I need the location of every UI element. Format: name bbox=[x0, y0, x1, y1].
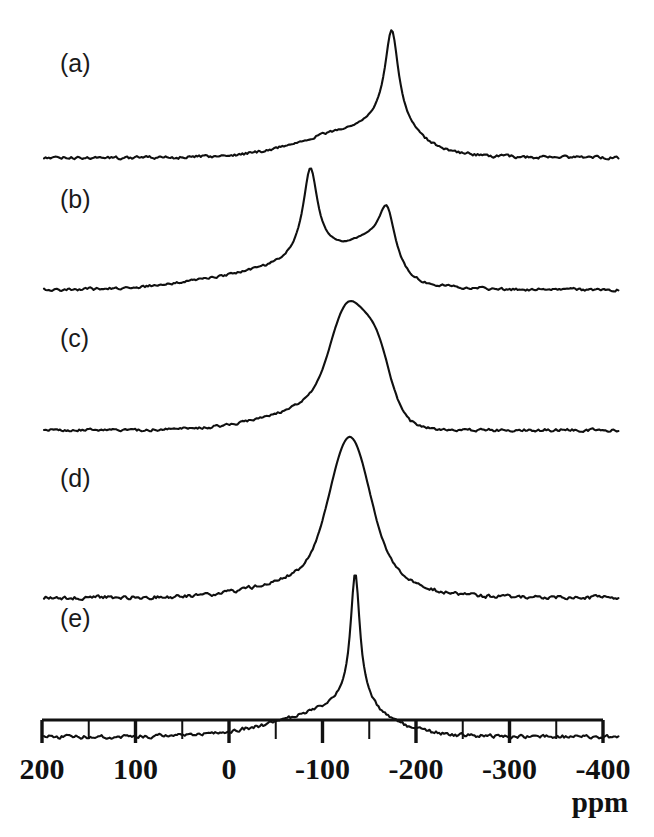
nmr-figure: (a)(b)(c)(d)(e) 2001000-100-200-300-400 … bbox=[0, 0, 654, 837]
tick-label--200: -200 bbox=[389, 752, 444, 785]
tick-label--400: -400 bbox=[576, 752, 631, 785]
axis-unit-label: ppm bbox=[572, 786, 628, 818]
panel-label-b: (b) bbox=[60, 185, 91, 213]
figure-background bbox=[0, 0, 654, 837]
tick-label-200: 200 bbox=[20, 752, 65, 785]
tick-label--300: -300 bbox=[482, 752, 537, 785]
panel-label-a: (a) bbox=[60, 49, 91, 77]
panel-label-c: (c) bbox=[60, 324, 89, 352]
tick-label-0: 0 bbox=[222, 752, 237, 785]
panel-label-d: (d) bbox=[60, 464, 91, 492]
panel-label-e: (e) bbox=[60, 604, 91, 632]
tick-label--100: -100 bbox=[295, 752, 350, 785]
tick-label-100: 100 bbox=[113, 752, 158, 785]
spectra-canvas: (a)(b)(c)(d)(e) 2001000-100-200-300-400 … bbox=[0, 0, 654, 837]
